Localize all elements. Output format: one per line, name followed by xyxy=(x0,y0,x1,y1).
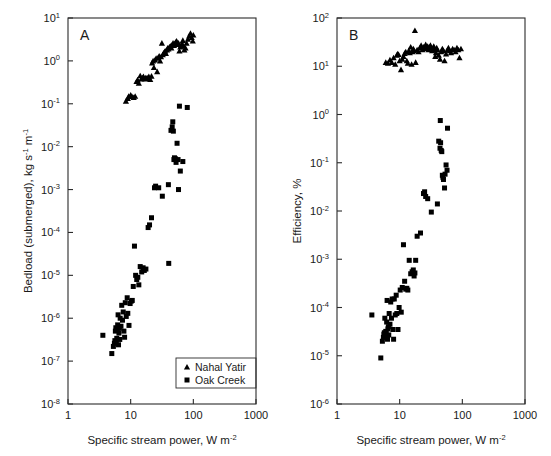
y-tick-label-B-5: 10-3 xyxy=(310,252,329,266)
data-point-square xyxy=(439,149,444,154)
y-tick-label-A-7: 10-6 xyxy=(41,311,60,325)
data-point-square xyxy=(170,119,175,124)
data-point-square xyxy=(387,322,392,327)
data-point-square xyxy=(390,327,395,332)
data-point-square xyxy=(118,324,123,329)
data-point-square xyxy=(156,185,161,190)
data-point-square xyxy=(121,309,126,314)
data-point-square xyxy=(413,258,418,263)
data-point-square xyxy=(125,311,130,316)
data-point-square xyxy=(436,139,441,144)
y-tick-label-B-3: 10-1 xyxy=(310,155,329,169)
data-point-square xyxy=(397,305,402,310)
x-tick-label-A-2: 100 xyxy=(184,409,202,421)
data-point-square xyxy=(166,182,171,187)
data-point-square xyxy=(438,118,443,123)
data-point-square xyxy=(121,329,126,334)
y-tick-label-A-0: 101 xyxy=(44,11,60,25)
data-point-square xyxy=(175,141,180,146)
data-point-square xyxy=(445,168,450,173)
y-tick-label-B-6: 10-4 xyxy=(310,300,329,314)
data-point-triangle xyxy=(180,37,186,43)
data-point-square xyxy=(405,288,410,293)
square-icon xyxy=(185,378,190,383)
data-point-square xyxy=(130,298,135,303)
y-tick-label-A-3: 10-2 xyxy=(41,139,60,153)
y-tick-label-A-1: 100 xyxy=(44,53,60,67)
data-point-square xyxy=(171,129,176,134)
panel-letter-A: A xyxy=(80,27,90,43)
data-point-square xyxy=(132,244,137,249)
y-tick-label-A-9: 10-8 xyxy=(41,397,60,411)
data-point-square xyxy=(116,342,121,347)
data-point-square xyxy=(412,270,417,275)
series-B-oak-creek xyxy=(369,118,450,360)
data-point-square xyxy=(160,194,165,199)
data-point-square xyxy=(395,327,400,332)
data-point-square xyxy=(123,300,128,305)
data-point-square xyxy=(394,311,399,316)
y-tick-label-A-2: 10-1 xyxy=(41,96,60,110)
data-point-square xyxy=(117,337,122,342)
data-point-square xyxy=(136,282,141,287)
data-point-square xyxy=(177,104,182,109)
data-point-triangle xyxy=(159,40,165,46)
y-tick-label-B-1: 101 xyxy=(313,59,329,73)
data-point-triangle xyxy=(456,55,462,61)
data-point-square xyxy=(386,332,391,337)
data-point-square xyxy=(178,169,183,174)
series-A-oak-creek xyxy=(100,104,189,356)
data-point-square xyxy=(100,333,105,338)
y-tick-label-B-2: 100 xyxy=(313,107,329,121)
data-point-square xyxy=(149,215,154,220)
data-point-square xyxy=(176,187,181,192)
data-point-square xyxy=(445,126,450,131)
data-point-square xyxy=(180,159,185,164)
x-axis-title-B: Specific stream power, W m-2 xyxy=(356,433,505,446)
y-tick-label-B-7: 10-5 xyxy=(310,348,329,362)
figure-container: 110100100010110010-110-210-310-410-510-6… xyxy=(0,0,551,456)
data-point-square xyxy=(116,331,121,336)
y-tick-label-B-0: 102 xyxy=(313,11,329,25)
data-point-square xyxy=(407,258,412,263)
data-point-square xyxy=(170,124,175,129)
x-tick-label-B-2: 100 xyxy=(453,409,471,421)
y-tick-label-A-8: 10-7 xyxy=(41,354,60,368)
data-point-square xyxy=(387,311,392,316)
x-axis-title-A: Specific stream power, W m-2 xyxy=(87,433,236,446)
data-point-square xyxy=(402,279,407,284)
x-tick-label-A-1: 10 xyxy=(125,409,137,421)
data-point-square xyxy=(135,275,140,280)
data-point-square xyxy=(441,177,446,182)
scatter-chart-figure: 110100100010110010-110-210-310-410-510-6… xyxy=(0,0,551,456)
data-point-square xyxy=(176,157,181,162)
data-point-square xyxy=(122,335,127,340)
data-point-square xyxy=(131,284,136,289)
data-point-square xyxy=(378,355,383,360)
data-point-square xyxy=(444,162,449,167)
y-tick-label-A-5: 10-4 xyxy=(41,225,60,239)
y-tick-label-A-4: 10-3 xyxy=(41,182,60,196)
data-point-square xyxy=(442,185,447,190)
data-point-triangle xyxy=(413,59,419,65)
data-point-square xyxy=(385,337,390,342)
legend-label-oak-creek: Oak Creek xyxy=(195,374,246,386)
data-point-square xyxy=(429,210,434,215)
legend-label-nahal-yatir: Nahal Yatir xyxy=(195,361,246,373)
y-axis-title-B: Efficiency, % xyxy=(291,179,303,244)
x-tick-label-A-3: 1000 xyxy=(244,409,268,421)
y-tick-label-B-8: 10-6 xyxy=(310,397,329,411)
data-point-square xyxy=(435,201,440,206)
x-tick-label-A-0: 1 xyxy=(65,409,71,421)
x-tick-label-B-1: 10 xyxy=(394,409,406,421)
data-point-square xyxy=(418,230,423,235)
data-point-square xyxy=(399,310,404,315)
plot-frame-A xyxy=(68,18,256,404)
data-point-square xyxy=(147,222,152,227)
series-B-nahal-yatir xyxy=(383,27,464,72)
data-point-square xyxy=(369,312,374,317)
x-tick-label-B-3: 1000 xyxy=(513,409,537,421)
data-point-triangle xyxy=(398,67,404,73)
panel-B: 110100100010210110010-110-210-310-410-51… xyxy=(291,11,537,447)
data-point-square xyxy=(185,105,190,110)
